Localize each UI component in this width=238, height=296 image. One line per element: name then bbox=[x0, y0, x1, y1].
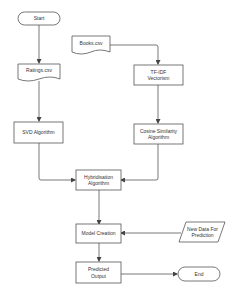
flowchart: Start Books.csv Ratings.csv TF-IDF Vecto… bbox=[0, 0, 238, 296]
edge-books-tfidf bbox=[110, 45, 158, 64]
end-terminal bbox=[178, 267, 220, 281]
newdata-parallelogram bbox=[179, 222, 225, 242]
edge-svd-hybrid bbox=[39, 143, 75, 180]
predicted-box bbox=[76, 262, 121, 283]
hybrid-box bbox=[76, 170, 121, 190]
flowchart-canvas bbox=[0, 0, 238, 296]
start-terminal bbox=[18, 12, 60, 25]
edge-cosine-hybrid bbox=[121, 144, 158, 180]
nodes bbox=[14, 12, 225, 283]
svd-box bbox=[14, 122, 63, 143]
books-document bbox=[72, 36, 110, 54]
ratings-document bbox=[18, 64, 60, 81]
cosine-box bbox=[134, 124, 183, 144]
model-box bbox=[76, 224, 121, 243]
tfidf-box bbox=[134, 65, 183, 85]
